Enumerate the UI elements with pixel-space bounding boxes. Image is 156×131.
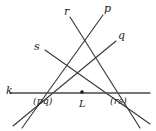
line-r (70, 17, 140, 128)
line-label-k: k (6, 85, 13, 96)
point-label-L: L (79, 99, 86, 109)
figure-canvas (0, 0, 156, 131)
point-label-rs: (rs) (110, 96, 127, 106)
line-p (22, 15, 103, 128)
point-L-dot (80, 90, 84, 94)
point-label-pq: (pq) (33, 96, 53, 106)
line-label-r: r (64, 6, 69, 17)
line-label-p: p (104, 3, 111, 14)
geometry-figure: r p q s k (pq) L (rs) (0, 0, 156, 131)
line-label-s: s (34, 41, 40, 52)
line-label-q: q (118, 30, 125, 41)
line-q (13, 41, 116, 126)
